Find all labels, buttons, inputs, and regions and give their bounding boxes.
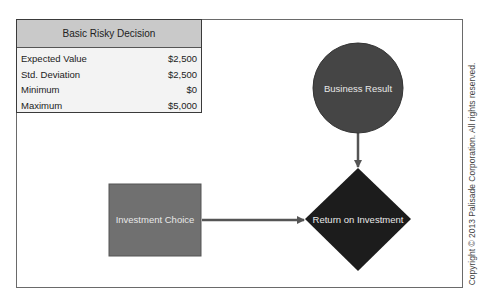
- stats-row-label: Minimum: [21, 82, 60, 98]
- stats-row-label: Std. Deviation: [21, 67, 80, 83]
- copyright-notice: Copyright © 2013 Palisade Corporation. A…: [467, 63, 477, 286]
- stats-row-maximum: Maximum $5,000: [21, 98, 197, 114]
- stats-table-title: Basic Risky Decision: [17, 20, 201, 48]
- stats-table: Basic Risky Decision Expected Value $2,5…: [16, 19, 202, 113]
- chance-node[interactable]: Business Result: [313, 43, 403, 133]
- outcome-node[interactable]: Return on Investment: [305, 168, 411, 271]
- decision-node-label: Investment Choice: [116, 214, 195, 225]
- outcome-node-label: Return on Investment: [313, 214, 404, 225]
- decision-node[interactable]: Investment Choice: [109, 184, 201, 256]
- chance-node-label: Business Result: [324, 83, 392, 94]
- stats-row-label: Expected Value: [21, 51, 87, 67]
- stats-row-std-deviation: Std. Deviation $2,500: [21, 67, 197, 83]
- stats-row-value: $5,000: [168, 98, 197, 114]
- stats-table-body: Expected Value $2,500 Std. Deviation $2,…: [17, 48, 201, 113]
- stats-row-value: $2,500: [168, 67, 197, 83]
- stats-row-value: $2,500: [168, 51, 197, 67]
- stats-row-value: $0: [186, 82, 197, 98]
- stats-row-label: Maximum: [21, 98, 62, 114]
- stats-row-expected-value: Expected Value $2,500: [21, 51, 197, 67]
- stats-row-minimum: Minimum $0: [21, 82, 197, 98]
